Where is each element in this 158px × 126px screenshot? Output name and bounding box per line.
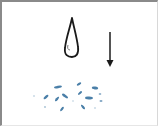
sketch-canvas	[0, 0, 158, 126]
arrow-down-icon	[107, 32, 114, 67]
splash-icon	[33, 82, 102, 112]
water-drop-icon	[65, 18, 78, 57]
